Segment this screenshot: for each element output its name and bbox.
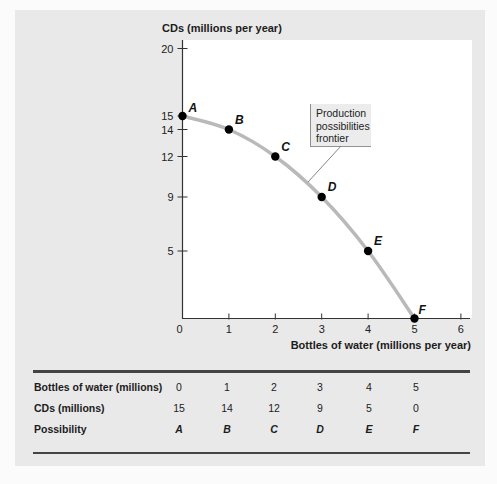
x-tick-label: 5 <box>411 323 417 335</box>
table-cell: 3 <box>305 381 335 393</box>
x-tick-label: 1 <box>226 323 232 335</box>
y-tick-label: 5 <box>167 245 173 257</box>
y-tick-label: 15 <box>161 110 173 122</box>
table-cell: 4 <box>354 381 384 393</box>
table-row-possibility: Possibility A B C D E F <box>33 423 470 439</box>
data-point-e <box>364 247 372 255</box>
table-cell: 5 <box>354 402 384 414</box>
y-tick-label: 20 <box>161 43 173 55</box>
point-label: C <box>281 140 290 154</box>
x-tick-label: 6 <box>458 323 464 335</box>
table-cell: 9 <box>305 402 335 414</box>
table-cell: 0 <box>401 402 431 414</box>
point-label: E <box>374 234 383 248</box>
point-label: B <box>235 113 244 127</box>
x-tick-label: 0 <box>176 323 182 335</box>
table-cell: 12 <box>259 402 289 414</box>
data-point-c <box>271 152 279 160</box>
table-cell: 1 <box>212 381 242 393</box>
point-label: F <box>419 303 427 317</box>
x-tick-label: 2 <box>272 323 278 335</box>
table-cell: C <box>259 423 289 435</box>
data-point-b <box>225 125 233 133</box>
data-point-f <box>410 314 418 322</box>
data-point-d <box>318 193 326 201</box>
table-cell: F <box>401 423 431 435</box>
data-table: Bottles of water (millions) 0 1 2 3 4 5 … <box>33 370 470 456</box>
plot-area <box>183 40 472 318</box>
callout-line-3: frontier <box>316 132 349 144</box>
point-label: A <box>188 101 198 115</box>
x-axis-title: Bottles of water (millions per year) <box>291 339 472 351</box>
table-cell: 5 <box>401 381 431 393</box>
table-cell: B <box>212 423 242 435</box>
row-label: Possibility <box>34 423 87 435</box>
table-cell: A <box>164 423 194 435</box>
y-tick-label: 14 <box>161 124 173 136</box>
table-cell: D <box>305 423 335 435</box>
y-tick-label: 12 <box>161 151 173 163</box>
table-bottom-rule <box>33 452 470 454</box>
callout-line-1: Production <box>316 107 366 119</box>
row-label: CDs (millions) <box>34 402 105 414</box>
point-label: D <box>328 180 337 194</box>
table-cell: 14 <box>212 402 242 414</box>
table-cell: 0 <box>164 381 194 393</box>
x-tick-label: 4 <box>365 323 371 335</box>
table-cell: 2 <box>259 381 289 393</box>
table-row-cds: CDs (millions) 15 14 12 9 5 0 <box>33 402 470 418</box>
callout-line-2: possibilities <box>316 120 370 132</box>
y-tick-label: 9 <box>167 191 173 203</box>
row-label: Bottles of water (millions) <box>34 381 162 393</box>
table-top-rule <box>33 370 470 373</box>
x-tick-label: 3 <box>319 323 325 335</box>
y-axis-title: CDs (millions per year) <box>162 22 282 34</box>
data-point-a <box>178 112 186 120</box>
table-cell: E <box>354 423 384 435</box>
table-cell: 15 <box>164 402 194 414</box>
table-row-bottles: Bottles of water (millions) 0 1 2 3 4 5 <box>33 381 470 397</box>
